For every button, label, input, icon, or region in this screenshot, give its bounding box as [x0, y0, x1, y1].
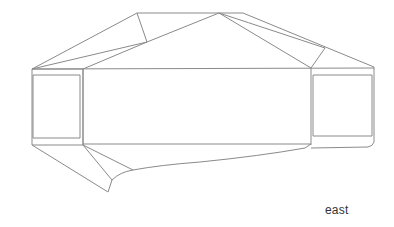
right-roof-facet	[219, 13, 374, 68]
right-end-panel	[311, 67, 374, 148]
east-elevation-drawing	[0, 0, 394, 227]
left-end-panel	[32, 69, 83, 145]
view-label: east	[325, 203, 348, 217]
base-curve	[112, 144, 311, 180]
lower-left-wing	[32, 145, 133, 192]
left-roof-facet	[32, 13, 219, 69]
